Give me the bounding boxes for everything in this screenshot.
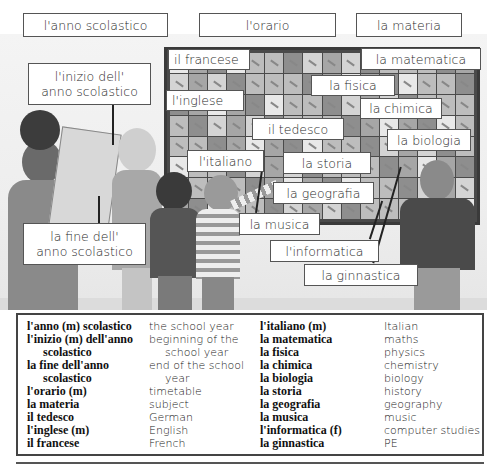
timetable-cell — [456, 95, 474, 115]
label-french: il francese — [168, 49, 250, 70]
timetable-cell — [265, 53, 283, 73]
label-text: l'inglese — [172, 93, 223, 108]
label-chemistry: la chimica — [360, 98, 442, 119]
vocab-translation: the school year — [149, 320, 260, 333]
label-end-of-year: la fine dell' anno scolastico — [23, 223, 146, 265]
timetable-cell — [246, 74, 264, 94]
timetable-cell — [323, 95, 341, 115]
vocab-right-italian: l'italiano (m) la matematica la fisica l… — [260, 320, 384, 454]
vocab-translation: timetable — [149, 385, 260, 398]
page-divider — [16, 462, 484, 474]
vocab-left-english: the school year beginning of the school … — [149, 320, 260, 454]
timetable-cell — [284, 74, 302, 94]
vocabulary-table: l'anno (m) scolastico l'inizio (m) dell'… — [16, 313, 484, 456]
timetable-cell — [170, 116, 188, 136]
figure-boy-behind — [20, 110, 60, 150]
timetable-cell — [437, 74, 455, 94]
timetable-cell — [342, 116, 360, 136]
timetable-cell — [265, 95, 283, 115]
vocab-translation: school year — [149, 346, 260, 359]
label-geography: la geografia — [273, 182, 374, 204]
vocab-translation: Italian — [384, 320, 484, 333]
vocab-translation: beginning of the — [149, 333, 260, 346]
vocab-translation: computer studies — [384, 424, 484, 437]
label-text: la storia — [302, 156, 352, 171]
timetable-cell — [246, 95, 264, 115]
vocab-translation: physics — [384, 346, 484, 359]
timetable-cell — [208, 116, 226, 136]
vocab-translation: English — [149, 424, 260, 437]
arrow-end-of-year — [98, 196, 100, 223]
label-text: la chimica — [369, 101, 433, 116]
label-music: la musica — [239, 213, 320, 235]
label-text: il tedesco — [268, 122, 328, 137]
label-start-of-year: l'inizio dell' anno scolastico — [28, 63, 151, 105]
label-physics: la fisica — [311, 75, 395, 96]
vocab-right-english: Italian maths physics chemistry biology … — [384, 320, 484, 454]
vocab-term: la ginnastica — [260, 437, 384, 450]
timetable-cell — [418, 74, 436, 94]
timetable-cell — [189, 116, 207, 136]
label-text-line2: anno scolastico — [41, 84, 138, 99]
label-text-line2: anno scolastico — [36, 244, 133, 259]
figure-boy-jacket — [150, 172, 200, 310]
timetable-cell — [380, 157, 398, 177]
label-text: l'informatica — [285, 244, 363, 259]
timetable-cell — [303, 95, 321, 115]
label-timetable: l'orario — [199, 13, 336, 37]
label-text-line1: la fine dell' — [50, 229, 119, 244]
timetable-cell — [342, 53, 360, 73]
timetable-cell — [456, 74, 474, 94]
timetable-cell — [265, 157, 283, 177]
label-text: la materia — [377, 18, 441, 33]
label-text: la fisica — [329, 78, 377, 93]
label-text: l'orario — [246, 18, 290, 33]
label-pe: la ginnastica — [304, 264, 418, 286]
label-english: l'inglese — [166, 90, 244, 111]
vocab-translation: subject — [149, 398, 260, 411]
vocab-translation: history — [384, 385, 484, 398]
timetable-cell — [170, 137, 188, 157]
vocab-translation: maths — [384, 333, 484, 346]
label-italian: l'italiano — [187, 150, 264, 172]
label-german: il tedesco — [252, 118, 344, 140]
timetable-cell — [399, 74, 417, 94]
label-history: la storia — [283, 152, 371, 174]
vocab-translation: chemistry — [384, 359, 484, 372]
label-maths: la matematica — [361, 48, 481, 70]
label-biology: la biologia — [387, 129, 471, 151]
label-text: la biologia — [397, 133, 461, 148]
label-text: l'italiano — [199, 154, 252, 169]
label-text: il francese — [174, 52, 239, 67]
figure-boy-striped — [196, 175, 246, 310]
label-text-line1: l'inizio dell' — [55, 69, 124, 84]
label-text: l'anno scolastico — [44, 18, 148, 33]
vocab-translation: biology — [384, 372, 484, 385]
vocab-translation: PE — [384, 437, 484, 450]
timetable-cell — [227, 116, 245, 136]
vocab-term: il francese — [27, 437, 149, 450]
label-subject: la materia — [356, 13, 462, 37]
timetable-cell — [303, 53, 321, 73]
label-text: la musica — [250, 217, 310, 232]
vocab-translation: geography — [384, 398, 484, 411]
vocab-translation: French — [149, 437, 260, 450]
label-text: la ginnastica — [321, 268, 400, 283]
vocab-left-italian: l'anno (m) scolastico l'inizio (m) dell'… — [27, 320, 149, 454]
timetable-cell — [284, 95, 302, 115]
arrow-start-of-year — [112, 105, 114, 145]
vocab-translation: German — [149, 411, 260, 424]
timetable-cell — [323, 53, 341, 73]
vocab-translation: end of the school — [149, 359, 260, 372]
label-text: la geografia — [287, 186, 361, 201]
timetable-cell — [284, 53, 302, 73]
timetable-cell — [342, 95, 360, 115]
label-text: la matematica — [376, 52, 466, 67]
timetable-cell — [265, 74, 283, 94]
vocab-translation: music — [384, 411, 484, 424]
label-computer-studies: l'informatica — [270, 240, 379, 262]
figure-teacher — [400, 160, 475, 310]
vocab-translation: year — [149, 372, 260, 385]
label-school-year: l'anno scolastico — [23, 13, 168, 37]
